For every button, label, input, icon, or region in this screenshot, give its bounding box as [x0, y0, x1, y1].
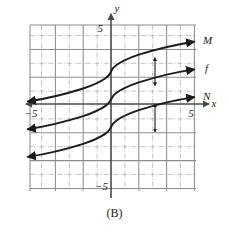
x-axis-label: x [211, 97, 217, 109]
x-tick-label-negative-5: −5 [25, 107, 38, 119]
curve-label-N: N [202, 90, 211, 102]
grid-group [30, 25, 196, 191]
y-tick-label-positive-5: 5 [98, 22, 104, 34]
y-tick-label-negative-5: −5 [95, 180, 108, 192]
x-tick-label-positive-5: 5 [188, 107, 194, 119]
coordinate-plane-svg: −5 5 5 −5 x y M f N [0, 0, 229, 233]
curve-label-M: M [202, 34, 213, 46]
axes-group [26, 14, 209, 198]
curve-label-f: f [205, 62, 210, 74]
graph-figure: −5 5 5 −5 x y M f N (B) [0, 0, 229, 233]
figure-caption: (B) [0, 206, 229, 221]
y-axis-label: y [114, 2, 120, 14]
